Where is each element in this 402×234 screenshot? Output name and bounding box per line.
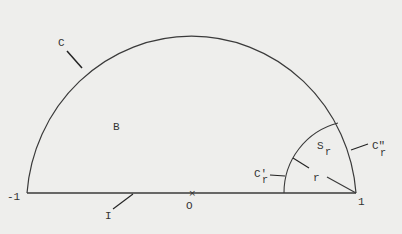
label-s-sub: r	[325, 147, 331, 158]
leader-c-prime	[270, 175, 285, 176]
leader-i	[113, 194, 133, 209]
leader-r-mark	[293, 158, 309, 168]
label-s: S	[317, 140, 324, 152]
label-origin: O	[186, 200, 193, 212]
leader-c-dprime	[351, 144, 368, 150]
leader-c	[67, 51, 82, 68]
half-disk-diagram: × C B -1 I O 1 S r r C' r C" r	[0, 0, 402, 234]
label-c: C	[58, 37, 65, 49]
label-minus-one: -1	[7, 191, 21, 203]
origin-mark: ×	[189, 188, 197, 198]
label-c-dprime-sub: r	[380, 148, 386, 159]
label-i: I	[105, 210, 112, 222]
label-b: B	[113, 121, 120, 133]
radius-line	[327, 177, 356, 193]
outer-semicircle-arc	[27, 36, 356, 193]
label-c-prime-sub: r	[262, 175, 268, 186]
inner-arc	[284, 123, 338, 193]
label-r: r	[313, 172, 320, 184]
label-one: 1	[358, 196, 365, 208]
